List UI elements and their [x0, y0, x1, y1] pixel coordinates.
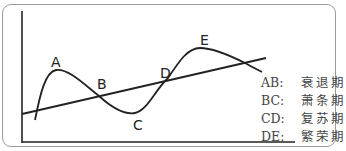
- legend-item-de: DE: 繁荣期: [261, 128, 346, 146]
- legend-item-bc: BC: 萧条期: [261, 92, 346, 110]
- point-label-b: B: [97, 76, 107, 92]
- legend-item-cd: CD: 复苏期: [261, 110, 346, 128]
- legend-item-ab: AB: 衰退期: [261, 74, 346, 92]
- legend-value: 繁荣期: [301, 128, 346, 146]
- point-label-c: C: [133, 117, 143, 133]
- point-label-e: E: [200, 32, 209, 48]
- legend-key: BC:: [261, 92, 301, 110]
- legend-value: 复苏期: [301, 110, 346, 128]
- legend-value: 萧条期: [301, 92, 346, 110]
- legend-key: CD:: [261, 110, 301, 128]
- phase-legend: AB: 衰退期 BC: 萧条期 CD: 复苏期 DE: 繁荣期: [261, 74, 346, 146]
- legend-key: AB:: [261, 74, 301, 92]
- legend-key: DE:: [261, 128, 301, 146]
- point-label-d: D: [160, 65, 171, 81]
- point-label-a: A: [51, 54, 61, 70]
- legend-value: 衰退期: [301, 74, 346, 92]
- cycle-curve: [35, 48, 262, 120]
